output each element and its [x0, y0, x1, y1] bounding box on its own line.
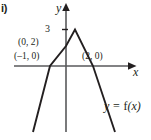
function-label-equals: = — [109, 99, 123, 113]
part-label: i) — [1, 3, 7, 14]
y-axis — [62, 3, 70, 132]
point-label-y-intercept: (0, 2) — [18, 38, 39, 48]
point-label-x-intercept-left: (–1, 0) — [14, 52, 39, 62]
function-equation-label: y = f(x) — [104, 100, 141, 112]
graph-figure: i) y x 3 (0, 2) (–1, 0) (2, 0) y = f(x) — [0, 0, 151, 140]
coordinate-plane-svg — [0, 0, 151, 140]
x-axis-label: x — [133, 66, 138, 78]
function-label-arg: (x) — [127, 99, 140, 113]
y-axis-label: y — [56, 2, 61, 14]
y-tick-3-label: 3 — [45, 24, 50, 34]
x-axis — [14, 62, 137, 70]
function-curve — [33, 30, 115, 133]
point-label-x-intercept-right: (2, 0) — [82, 52, 103, 62]
